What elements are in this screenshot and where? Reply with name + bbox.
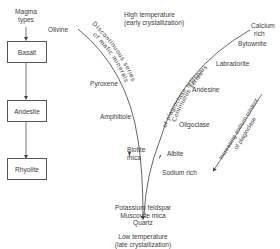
mineral-andesine: Andesine [192, 86, 220, 94]
high-temperature-label: High temperature (early crystallization) [124, 11, 184, 26]
footer-line1: Low temperature [98, 233, 188, 241]
end-products: Potassium feldspar Muscovite mica Quartz [100, 204, 186, 227]
sodium-rich-label: Sodium rich [162, 169, 197, 177]
biotite-line2: mica [127, 154, 145, 162]
mineral-pyroxene: Pyroxene [90, 80, 118, 88]
magma-heading-line2: types [8, 16, 44, 24]
header-line2: (early crystallization) [124, 19, 184, 27]
magma-type-rhyolite: Rhyolite [7, 158, 47, 180]
magma-heading-line1: Magma [8, 8, 44, 16]
low-temperature-label: Low temperature (late crystallization) [98, 233, 188, 248]
end-product-potassium-feldspar: Potassium feldspar [100, 204, 186, 212]
calcium-line1: Calcium [251, 22, 275, 30]
magma-type-basalt: Basalt [7, 41, 47, 63]
biotite-line1: Biotite [127, 146, 145, 154]
magma-type-andesite: Andesite [7, 100, 47, 122]
mineral-oligoclase: Oligoclase [179, 121, 210, 129]
end-product-quartz: Quartz [100, 219, 186, 227]
end-product-muscovite-mica: Muscovite mica [100, 212, 186, 220]
sodium-trend-label: Increasing sodium content [218, 97, 260, 160]
mineral-olivine: Olivine [48, 26, 68, 34]
mineral-biotite-mica: Biotite mica [127, 146, 145, 161]
calcium-line2: rich [251, 30, 275, 38]
mineral-bytownite: Bytownite [238, 40, 267, 48]
continuous-series-label: Continuous series [170, 70, 204, 123]
mineral-albite: Albite [167, 150, 184, 158]
footer-line2: (late crystallization) [98, 241, 188, 249]
magma-types-heading: Magma types [8, 8, 44, 23]
calcium-rich-label: Calcium rich [251, 22, 275, 37]
mineral-labradorite: Labradorite [216, 60, 249, 68]
header-line1: High temperature [124, 11, 184, 19]
mineral-amphibole: Amphibole [100, 113, 131, 121]
